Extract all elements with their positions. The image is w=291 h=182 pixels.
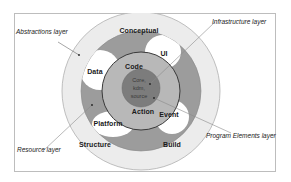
label-platform: Platform — [93, 120, 122, 127]
label-code: Code — [125, 63, 143, 70]
label-ui: UI — [160, 50, 167, 57]
callout-program-elements-layer: Program Elements layer — [206, 132, 276, 139]
label-action: Action — [132, 108, 154, 115]
label-event: Event — [159, 111, 179, 118]
callout-infrastructure-layer: Infrastructure layer — [212, 18, 266, 25]
callout-resource-layer: Resource layer — [17, 146, 61, 153]
label-build: Build — [163, 141, 181, 148]
label-conceptual: Conceptual — [119, 27, 158, 34]
callout-abstractions-layer: Abstractions layer — [16, 28, 68, 35]
core-label: Core, kdm, source — [124, 76, 154, 100]
label-data: Data — [87, 68, 103, 75]
core-line-2: kdm, — [124, 84, 154, 92]
core-line-3: source — [124, 92, 154, 100]
core-line-1: Core, — [124, 76, 154, 84]
label-structure: Structure — [79, 141, 111, 148]
